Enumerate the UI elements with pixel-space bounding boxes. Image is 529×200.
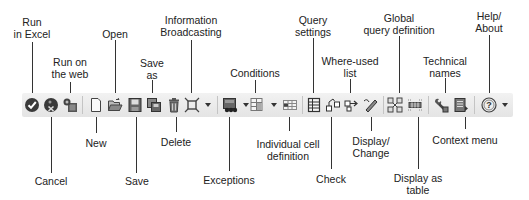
information-broadcasting-button[interactable] [183,96,201,114]
label-run-on-web: Run on the web [52,56,89,80]
label-global-query-definition: Global query definition [363,12,434,36]
label-line: Display as [394,172,442,184]
run-in-excel-button[interactable] [23,96,41,114]
exceptions-icon [222,97,238,113]
dropdown-arrow-icon [271,103,277,107]
leader-line [115,40,116,93]
leader-line [331,117,332,169]
save-button[interactable] [126,96,144,114]
individual-cell-definition-button[interactable] [281,96,299,114]
leader-line [350,79,351,93]
label-display-as-table: Display as table [394,172,442,196]
label-technical-names: Technical names [423,55,467,79]
label-line: Where-used [321,55,378,67]
separator [428,96,429,114]
label-line: Save [125,175,149,187]
global-query-icon [387,97,403,113]
label-line: definition [256,150,319,162]
label-save: Save [125,175,149,187]
dropdown-arrow-icon [205,103,211,107]
label-information-broadcasting: Information Broadcasting [160,14,221,38]
label-help-about: Help/ About [475,10,502,34]
save-disk-icon [127,97,143,113]
query-settings-button[interactable] [305,96,323,114]
conditions-button[interactable] [248,96,266,114]
label-line: Exceptions [203,174,254,186]
leader-line [229,117,230,171]
leader-line [418,117,419,169]
leader-line [289,117,290,131]
delete-button[interactable] [165,96,183,114]
display-change-button[interactable] [362,96,380,114]
help-about-dropdown[interactable] [501,96,509,114]
conditions-dropdown[interactable] [270,96,278,114]
label-query-settings: Query settings [295,14,331,38]
label-line: Check [316,173,346,185]
label-line: the web [52,68,89,80]
leader-line [399,36,400,93]
label-where-used-list: Where-used list [321,55,378,79]
leader-line [96,117,97,133]
check-button[interactable] [324,96,342,114]
pencil-icon [363,97,379,113]
leader-line [255,80,256,93]
web-run-icon [62,97,78,113]
context-menu-icon [453,97,469,113]
leader-line [152,80,153,93]
run-on-web-button[interactable] [61,96,79,114]
check-hierarchy-icon [325,97,341,113]
display-as-table-button[interactable] [406,96,424,114]
trash-icon [166,97,182,113]
label-line: Conditions [230,67,280,79]
label-line: settings [295,26,331,38]
label-line: Save [140,57,164,69]
label-check: Check [316,173,346,185]
leader-line [136,117,137,173]
exceptions-button[interactable] [221,96,239,114]
label-save-as: Save as [140,57,164,81]
separator [383,96,384,114]
broadcast-icon [184,97,200,113]
separator [217,96,218,114]
technical-names-button[interactable] [432,96,450,114]
help-icon: ? [481,97,497,113]
leader-line [51,117,52,173]
label-delete: Delete [161,136,191,148]
label-line: Cancel [35,175,68,187]
separator [474,96,475,114]
open-button[interactable] [106,96,124,114]
label-line: query definition [363,24,434,36]
label-line: in Excel [14,28,51,40]
svg-text:?: ? [486,100,492,110]
label-run-in-excel: Run in Excel [14,16,51,40]
label-line: Display/ [352,135,389,147]
where-used-list-button[interactable] [342,96,360,114]
save-as-icon [146,97,162,113]
label-line: Query [295,14,331,26]
new-button[interactable] [87,96,105,114]
save-as-button[interactable] [145,96,163,114]
separator [82,96,83,114]
label-line: Run [14,16,51,28]
information-broadcasting-dropdown[interactable] [204,96,212,114]
label-line: Technical [423,55,467,67]
separator [302,96,303,114]
leader-line [489,35,490,93]
help-about-button[interactable]: ? [480,96,498,114]
global-query-definition-button[interactable] [386,96,404,114]
label-line: Global [363,12,434,24]
new-document-icon [88,97,104,113]
leader-line [176,117,177,132]
leader-line [465,117,466,129]
label-line: About [475,22,502,34]
leader-line [313,38,314,93]
where-used-icon [343,97,359,113]
cancel-circle-icon [43,97,59,113]
leader-line [32,42,33,93]
context-menu-button[interactable] [452,96,470,114]
conditions-icon [249,97,265,113]
label-context-menu: Context menu [432,134,497,146]
label-line: Run on [52,56,89,68]
cancel-button[interactable] [42,96,60,114]
label-display-change: Display/ Change [352,135,389,159]
